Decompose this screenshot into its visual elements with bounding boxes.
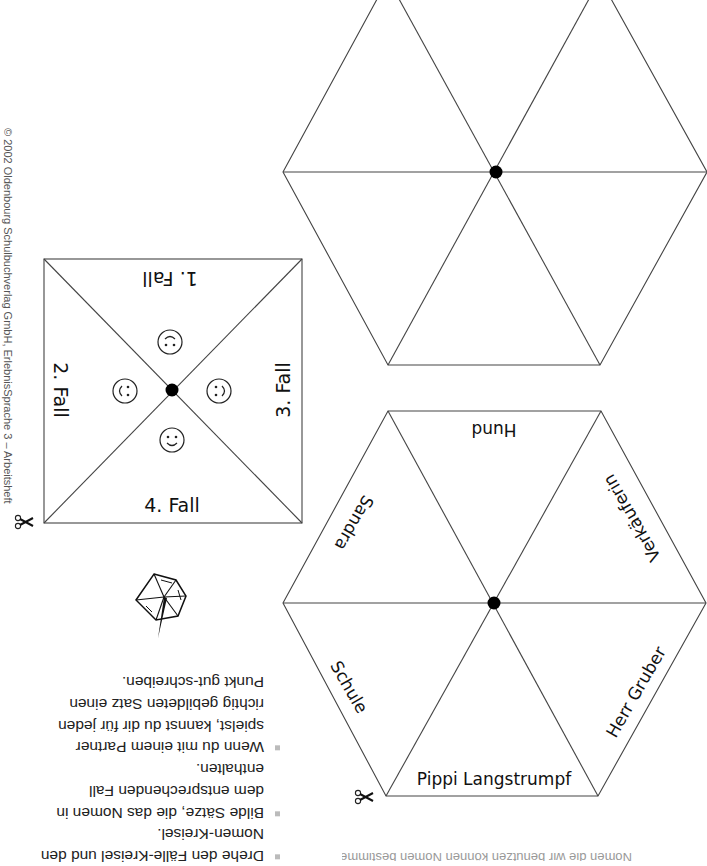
smiley-bottom-icon — [160, 428, 184, 452]
instruction-text: Bilde Sätze, die das Nomen in dem entspr… — [56, 762, 264, 822]
instructions-list: Drehe den Fälle-Kreisel und den Nomen-Kr… — [30, 672, 280, 866]
nomen-verkaeuferin: Verkäuferin — [599, 471, 665, 565]
nomen-schule: Schule — [326, 657, 372, 716]
nomen-herr-gruber: Herr Gruber — [602, 643, 670, 741]
instruction-text: Drehe den Fälle-Kreisel und den Nomen-Kr… — [41, 827, 264, 866]
fall-2-label: 2. Fall — [50, 362, 72, 418]
nomen-sandra: Sandra — [330, 492, 377, 554]
bullet-icon — [275, 811, 280, 816]
smiley-right-icon — [207, 379, 231, 403]
spinner-hub-dot — [488, 597, 501, 610]
fall-3-label: 3. Fall — [272, 362, 294, 418]
instruction-item: Bilde Sätze, die das Nomen in dem entspr… — [30, 759, 280, 824]
faelle-square-spinner: 1. Fall 2. Fall 3. Fall 4. Fall — [44, 259, 302, 523]
copyright-notice: © 2002 Oldenbourg Schulbuchverlag GmbH, … — [2, 128, 14, 504]
instruction-item: Wenn du mit einem Partner spielst, kanns… — [30, 672, 280, 759]
nomen-hund: Hund — [471, 420, 516, 440]
blank-hexagon-spinner — [283, 0, 707, 365]
smiley-left-icon — [113, 379, 137, 403]
scissors-icon — [355, 790, 373, 803]
scissors-icon — [15, 515, 33, 528]
cut-off-caption: Nomen die wir benutzen können Nomen best… — [342, 853, 632, 861]
spinner-hub-dot — [166, 384, 179, 397]
bullet-icon — [275, 746, 280, 751]
bullet-icon — [275, 854, 280, 859]
nomen-hexagon-spinner: Hund Verkäuferin Herr Gruber Pippi Langs… — [283, 411, 706, 796]
fall-1-label: 1. Fall — [142, 268, 198, 290]
spinner-hub-dot — [490, 166, 503, 179]
instruction-text: Wenn du mit einem Partner spielst, kanns… — [58, 675, 264, 757]
spinning-top-icon — [136, 574, 186, 638]
instruction-item: Drehe den Fälle-Kreisel und den Nomen-Kr… — [30, 824, 280, 866]
fall-4-label: 4. Fall — [144, 494, 200, 516]
smiley-top-icon — [158, 330, 182, 354]
nomen-pippi-langstrumpf: Pippi Langstrumpf — [417, 769, 572, 789]
